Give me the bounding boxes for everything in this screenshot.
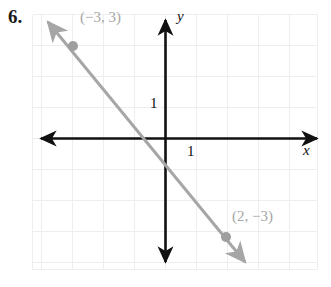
- y-unit-tick-label: 1: [150, 95, 158, 112]
- coordinate-plane-graph: [0, 0, 331, 287]
- plotted-line: [48, 22, 245, 262]
- y-axis-label: y: [177, 8, 184, 25]
- point-label-2-negative3: (2, −3): [232, 208, 273, 225]
- worksheet-problem-page: 6.: [0, 0, 331, 287]
- plotted-point-b: [221, 232, 231, 242]
- grid-lines: [33, 15, 318, 270]
- x-axis-label: x: [303, 142, 310, 159]
- plotted-point-a: [68, 41, 78, 51]
- x-unit-tick-label: 1: [187, 143, 195, 160]
- point-label-negative3-3: (−3, 3): [80, 9, 121, 26]
